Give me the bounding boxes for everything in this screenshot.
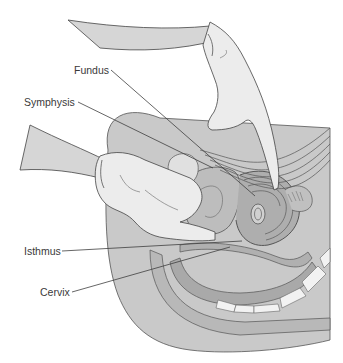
upper-arm bbox=[68, 20, 218, 50]
label-cervix: Cervix bbox=[40, 287, 70, 298]
label-fundus: Fundus bbox=[74, 65, 109, 76]
anatomical-diagram: Fundus Symphysis Isthmus Cervix bbox=[0, 0, 343, 363]
label-symphysis: Symphysis bbox=[24, 97, 75, 108]
label-isthmus: Isthmus bbox=[24, 246, 61, 257]
illustration bbox=[0, 0, 343, 363]
lower-arm bbox=[20, 125, 105, 178]
